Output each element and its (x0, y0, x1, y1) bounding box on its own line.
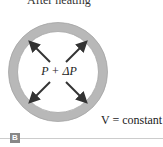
pressure-label: P + ΔP (40, 64, 78, 79)
divider (20, 138, 163, 139)
divider-left (0, 138, 10, 139)
volume-label: V = constant (101, 113, 162, 128)
section-badge: B (10, 133, 20, 143)
